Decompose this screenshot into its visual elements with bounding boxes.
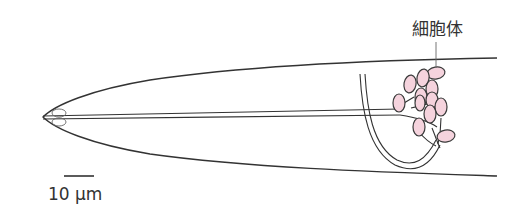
neuron-diagram: 細胞体 10 μm <box>0 0 526 216</box>
soma <box>415 95 425 111</box>
cell-body-label: 細胞体 <box>412 19 463 39</box>
cell-bodies <box>393 66 456 144</box>
soma <box>393 94 405 112</box>
soma <box>413 118 425 136</box>
soma <box>435 98 447 116</box>
soma <box>403 74 418 94</box>
amphid-openings <box>52 109 66 126</box>
nerve-bundle <box>43 109 437 127</box>
scale-bar-label: 10 μm <box>48 184 102 204</box>
soma <box>424 105 436 123</box>
